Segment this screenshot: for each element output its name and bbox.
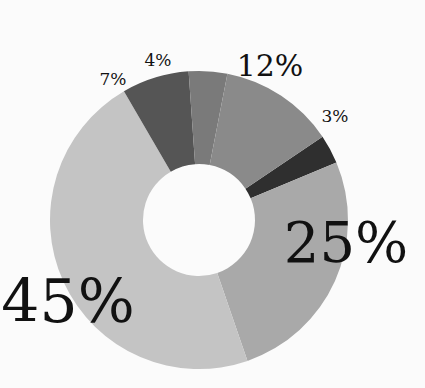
slice-label: 12%	[237, 48, 304, 83]
slice-label: 25%	[284, 210, 408, 275]
slice-label: 4%	[145, 50, 172, 70]
slice-label: 7%	[100, 69, 127, 89]
slice-label: 45%	[1, 266, 134, 336]
donut-chart: 3%25%45%7%4%12%	[0, 0, 425, 388]
slice-label: 3%	[322, 106, 349, 126]
